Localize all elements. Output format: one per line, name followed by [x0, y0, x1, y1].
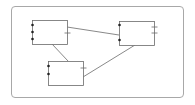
edge-1-3[interactable] [52, 44, 68, 61]
input-port-icon[interactable] [118, 24, 121, 27]
input-port-icon[interactable] [118, 39, 121, 42]
node-2[interactable] [118, 22, 157, 46]
input-port-icon[interactable] [47, 73, 50, 76]
node-graph-diagram [0, 0, 195, 105]
edge-2-3[interactable] [83, 45, 135, 77]
input-port-icon[interactable] [47, 65, 50, 68]
node-3[interactable] [47, 62, 86, 86]
node-box[interactable] [120, 22, 155, 46]
node-1[interactable] [31, 21, 70, 45]
input-port-icon[interactable] [31, 24, 34, 27]
edge-1-2[interactable] [67, 27, 119, 35]
input-port-icon[interactable] [31, 38, 34, 41]
node-box[interactable] [33, 21, 68, 45]
node-box[interactable] [49, 62, 84, 86]
input-port-icon[interactable] [31, 31, 34, 34]
